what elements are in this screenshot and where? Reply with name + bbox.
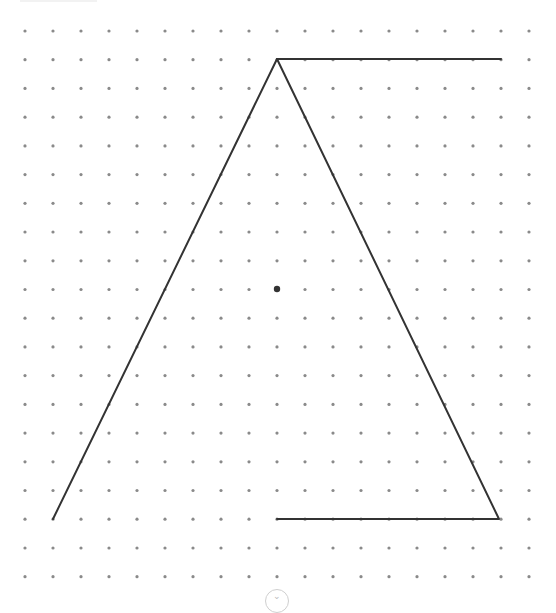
grid-dot xyxy=(275,460,278,463)
grid-dot xyxy=(527,29,530,32)
drawn-line-right-bottom[interactable] xyxy=(277,59,499,519)
grid-dot xyxy=(499,29,502,32)
grid-dot xyxy=(107,317,110,320)
grid-dot xyxy=(107,374,110,377)
grid-dot xyxy=(135,58,138,61)
grid-dot xyxy=(499,173,502,176)
grid-dot xyxy=(51,29,54,32)
grid-dot xyxy=(163,202,166,205)
grid-dot xyxy=(359,374,362,377)
grid-dot xyxy=(471,489,474,492)
grid-dot xyxy=(51,116,54,119)
grid-dot xyxy=(191,87,194,90)
grid-dot xyxy=(79,288,82,291)
grid-dot xyxy=(471,259,474,262)
grid-dot xyxy=(163,144,166,147)
grid-dot xyxy=(527,259,530,262)
grid-dot xyxy=(275,230,278,233)
grid-dot xyxy=(359,259,362,262)
grid-dot xyxy=(135,202,138,205)
grid-dot xyxy=(163,546,166,549)
grid-dot xyxy=(135,230,138,233)
grid-dot xyxy=(107,230,110,233)
grid-dot xyxy=(135,288,138,291)
grid-dot xyxy=(331,403,334,406)
grid-dot xyxy=(275,345,278,348)
grid-dot xyxy=(303,29,306,32)
grid-dot xyxy=(107,87,110,90)
grid-dot xyxy=(443,345,446,348)
grid-dot xyxy=(303,144,306,147)
grid-dot xyxy=(51,317,54,320)
grid-dot xyxy=(79,202,82,205)
scroll-down-button[interactable]: ⌄ xyxy=(265,589,289,613)
grid-dot xyxy=(527,546,530,549)
grid-dot xyxy=(275,144,278,147)
grid-dot xyxy=(23,116,26,119)
grid-dot xyxy=(275,489,278,492)
grid-dot xyxy=(387,230,390,233)
grid-dot xyxy=(79,173,82,176)
grid-dot xyxy=(247,288,250,291)
grid-dot xyxy=(107,29,110,32)
grid-dot xyxy=(443,144,446,147)
grid-dot xyxy=(23,489,26,492)
grid-dot xyxy=(191,144,194,147)
grid-dot xyxy=(219,116,222,119)
grid-dot xyxy=(415,173,418,176)
grid-dot xyxy=(163,489,166,492)
grid-dot xyxy=(247,345,250,348)
grid-dot xyxy=(51,173,54,176)
grid-dot xyxy=(415,288,418,291)
grid-dot xyxy=(359,403,362,406)
grid-dot xyxy=(303,230,306,233)
grid-dot xyxy=(247,144,250,147)
grid-dot xyxy=(387,345,390,348)
grid-dot xyxy=(415,202,418,205)
grid-dot xyxy=(303,575,306,578)
grid-dot xyxy=(135,173,138,176)
grid-dot xyxy=(527,575,530,578)
grid-dot xyxy=(107,144,110,147)
grid-dot xyxy=(191,575,194,578)
grid-dot xyxy=(499,345,502,348)
grid-dot xyxy=(23,230,26,233)
grid-dot xyxy=(527,116,530,119)
grid-dot xyxy=(471,29,474,32)
grid-dot xyxy=(219,575,222,578)
grid-dot xyxy=(219,87,222,90)
grid-dot xyxy=(303,202,306,205)
grid-dot xyxy=(163,575,166,578)
grid-dot xyxy=(163,116,166,119)
grid-dot xyxy=(79,432,82,435)
grid-dot xyxy=(359,288,362,291)
grid-dot xyxy=(247,518,250,521)
grid-dot xyxy=(107,518,110,521)
grid-dot xyxy=(191,288,194,291)
grid-dot xyxy=(107,575,110,578)
grid-dot xyxy=(471,87,474,90)
grid-dot xyxy=(191,374,194,377)
grid-dot xyxy=(107,202,110,205)
grid-dot xyxy=(331,288,334,291)
grid-dot xyxy=(51,546,54,549)
grid-dot xyxy=(527,518,530,521)
grid-dot xyxy=(471,288,474,291)
grid-dot xyxy=(499,259,502,262)
grid-dot xyxy=(527,58,530,61)
grid-dot xyxy=(331,29,334,32)
grid-dot xyxy=(51,345,54,348)
center-point[interactable] xyxy=(274,286,280,292)
grid-dot xyxy=(135,460,138,463)
grid-dot xyxy=(331,546,334,549)
grid-dot xyxy=(163,58,166,61)
grid-dot xyxy=(331,575,334,578)
grid-dot xyxy=(499,288,502,291)
grid-dot xyxy=(443,116,446,119)
grid-dot xyxy=(219,29,222,32)
grid-dot xyxy=(23,87,26,90)
grid-dot xyxy=(191,489,194,492)
grid-dot xyxy=(163,403,166,406)
grid-dot xyxy=(331,432,334,435)
